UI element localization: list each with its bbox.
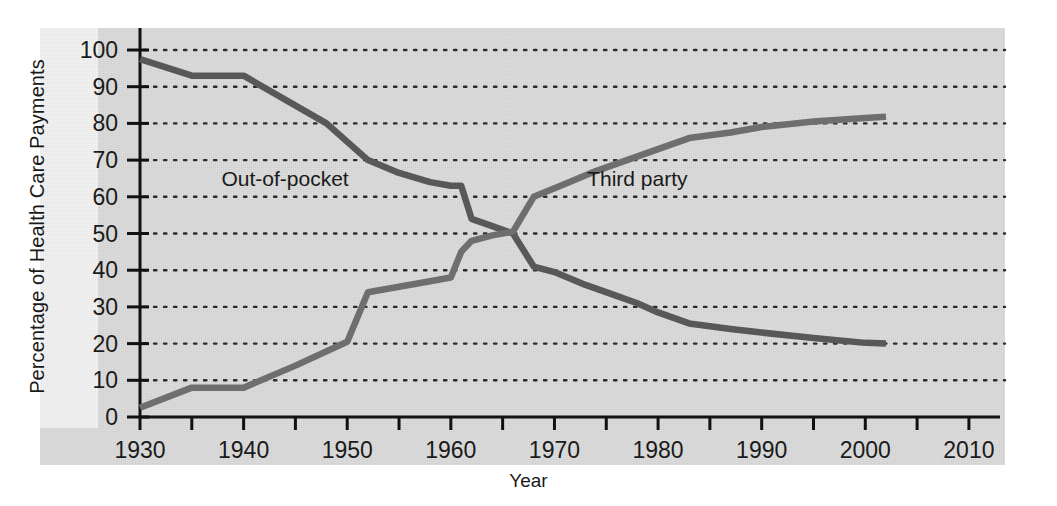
x-tick-label: 1960 [425,437,476,463]
y-tick-label: 90 [92,74,118,100]
y-tick-label: 30 [92,294,118,320]
axis-lines-group [140,28,1000,417]
x-tick-label: 1930 [114,437,165,463]
y-tick-label: 50 [92,221,118,247]
y-tick-label: 40 [92,257,118,283]
x-tick-label: 2010 [943,437,994,463]
y-tick-label: 20 [92,331,118,357]
y-tick-label: 10 [92,367,118,393]
x-tick-label: 1970 [529,437,580,463]
y-tick-label: 80 [92,110,118,136]
x-tick-label: 1980 [632,437,683,463]
grid-lines-group [144,50,1005,380]
x-tick-label: 2000 [840,437,891,463]
x-tick-label: 1990 [736,437,787,463]
x-tick-label: 1940 [218,437,269,463]
x-tick-label: 1950 [322,437,373,463]
y-tick-label: 70 [92,147,118,173]
x-axis-ticks-group: 193019401950196019701980199020002010 [114,417,994,463]
series-label-third-party: Third party [587,167,688,190]
y-tick-label: 100 [80,37,118,63]
y-tick-label: 0 [105,404,118,430]
line-chart-svg: 0102030405060708090100 19301940195019601… [0,0,1057,506]
y-tick-label: 60 [92,184,118,210]
series-line-out-of-pocket [140,59,886,343]
series-label-out-of-pocket: Out-of-pocket [221,167,348,190]
figure-container: Percentage of Health Care Payments Year … [0,0,1057,506]
